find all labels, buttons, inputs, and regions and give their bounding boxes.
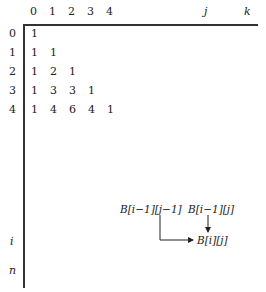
recurrence-arrows (0, 0, 266, 292)
